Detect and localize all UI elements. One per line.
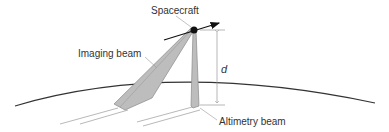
imaging-beam	[114, 28, 194, 110]
altimetry-beam	[191, 30, 199, 108]
altimetry-beam-label: Altimetry beam	[219, 116, 286, 127]
distance-label: d	[221, 63, 228, 75]
altimetry-ground-tracks	[137, 106, 200, 126]
spacecraft-icon	[191, 27, 198, 34]
diagram-canvas: Spacecraft Imaging beam Altimetry beam d	[0, 0, 389, 132]
imaging-beam-label: Imaging beam	[78, 48, 141, 59]
altimetry-beam-leader	[200, 108, 217, 120]
spacecraft-label: Spacecraft	[151, 5, 199, 16]
imaging-ground-tracks	[60, 108, 128, 124]
imaging-beam-leader	[145, 57, 157, 68]
spacecraft-leader	[176, 16, 191, 27]
